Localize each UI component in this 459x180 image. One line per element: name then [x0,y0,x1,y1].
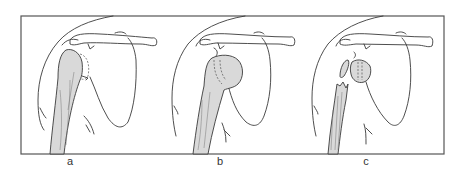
panel-a-drawing [38,16,157,154]
panel-c-drawing [312,16,433,154]
panel-label-b: b [210,155,230,167]
panel-label-a: a [60,155,80,167]
panel-label-c: c [356,155,376,167]
shoulder-illustration-figure: a b c [0,0,459,180]
panel-b-drawing [172,16,295,154]
illustration-canvas [0,0,459,180]
